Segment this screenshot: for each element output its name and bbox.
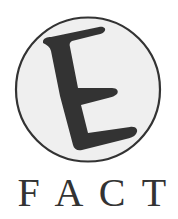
wordmark-letter-c: C: [99, 170, 126, 213]
wordmark-fact: F A C T: [0, 168, 178, 212]
wordmark-letter-t: T: [142, 170, 166, 213]
wordmark-letter-a: A: [55, 170, 84, 213]
fact-logo: F A C T: [0, 0, 178, 219]
emblem-circle-e-icon: [0, 0, 178, 170]
wordmark-letter-f: F: [17, 170, 39, 213]
